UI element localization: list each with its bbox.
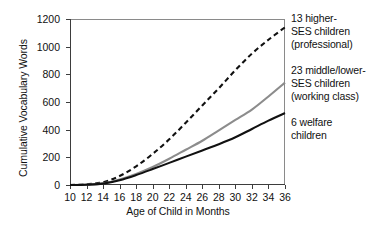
legend-line: 23 middle/lower- — [291, 64, 366, 77]
y-tick-label: 1200 — [37, 13, 60, 25]
series-line-professional — [70, 27, 285, 185]
x-tick-label: 12 — [81, 191, 93, 203]
x-tick-mark — [268, 185, 269, 189]
x-tick-mark — [153, 185, 154, 189]
legend-entry-professional: 13 higher- SES children (professional) — [291, 12, 353, 52]
series-line-working-class — [70, 83, 285, 185]
y-tick-label: 0 — [54, 179, 60, 191]
x-tick-mark — [285, 185, 286, 189]
x-tick-mark — [136, 185, 137, 189]
x-tick-label: 28 — [213, 191, 225, 203]
x-axis-title: Age of Child in Months — [70, 205, 286, 217]
legend-line: 13 higher- — [291, 12, 353, 25]
legend-line: children — [291, 129, 332, 142]
y-tick-label: 600 — [42, 96, 60, 108]
legend-line: (professional) — [291, 38, 353, 51]
legend-entry-working-class: 23 middle/lower- SES children (working c… — [291, 64, 366, 104]
legend-line: SES children — [291, 25, 353, 38]
x-tick-mark — [202, 185, 203, 189]
x-tick-mark — [219, 185, 220, 189]
x-tick-mark — [235, 185, 236, 189]
y-tick-label: 200 — [42, 151, 60, 163]
series-line-welfare — [70, 113, 285, 185]
vocabulary-growth-chart: Cumulative Vocabulary Words 020040060080… — [0, 0, 382, 228]
legend-line: 6 welfare — [291, 116, 332, 129]
x-tick-mark — [120, 185, 121, 189]
legend-line: (working class) — [291, 90, 366, 103]
x-tick-label: 16 — [114, 191, 126, 203]
y-tick-label: 800 — [42, 68, 60, 80]
x-tick-label: 22 — [163, 191, 175, 203]
x-tick-label: 18 — [130, 191, 142, 203]
x-tick-label: 14 — [97, 191, 109, 203]
x-tick-label: 24 — [180, 191, 192, 203]
legend-entry-welfare: 6 welfare children — [291, 116, 332, 142]
x-tick-label: 32 — [246, 191, 258, 203]
series-curves — [70, 19, 285, 185]
y-tick-label: 400 — [42, 124, 60, 136]
x-tick-label: 26 — [196, 191, 208, 203]
y-axis-title: Cumulative Vocabulary Words — [17, 23, 29, 193]
x-tick-label: 10 — [64, 191, 76, 203]
x-tick-label: 30 — [230, 191, 242, 203]
x-tick-mark — [252, 185, 253, 189]
x-tick-mark — [186, 185, 187, 189]
y-tick-label: 1000 — [37, 41, 60, 53]
x-tick-mark — [103, 185, 104, 189]
legend-line: SES children — [291, 77, 366, 90]
x-tick-label: 20 — [147, 191, 159, 203]
x-tick-label: 34 — [263, 191, 275, 203]
x-tick-mark — [169, 185, 170, 189]
x-tick-label: 36 — [279, 191, 291, 203]
plot-area: 020040060080010001200 101214161820222426… — [70, 19, 285, 185]
